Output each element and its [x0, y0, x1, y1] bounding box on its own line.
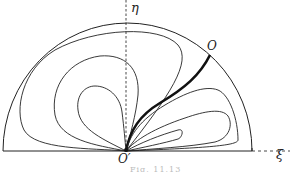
eta-axis-label: η	[131, 1, 139, 14]
streamline-diagram: η O O′ ξ Fig. 11.13	[0, 0, 290, 172]
right-curve-1	[126, 88, 238, 151]
origin-label: O′	[118, 153, 131, 165]
xi-axis-label: ξ	[276, 148, 283, 161]
diagram-canvas	[0, 0, 290, 172]
point-o-label: O	[207, 40, 217, 52]
left-curve-1	[20, 32, 182, 151]
figure-caption: Fig. 11.13	[130, 165, 181, 172]
